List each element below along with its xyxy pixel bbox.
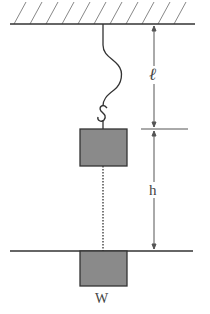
hook-icon [98, 106, 107, 122]
label-weight: W [95, 291, 109, 306]
slack-cord [103, 24, 121, 106]
lower-weight-block [80, 251, 127, 286]
upper-weight-block [80, 129, 127, 166]
label-drop-height: h [149, 182, 157, 198]
ceiling-hatching [14, 2, 186, 24]
diagram-canvas: ℓ h W [0, 0, 210, 314]
label-cord-length: ℓ [149, 65, 156, 84]
